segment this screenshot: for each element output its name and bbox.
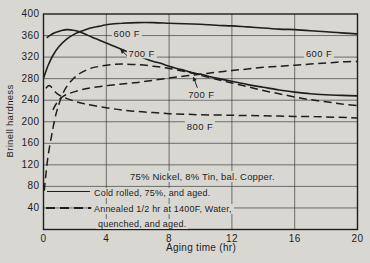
legend-label-annealed-line2: quenched, and aged. [96,219,188,229]
y-tick-label-320: 320 [0,51,40,62]
x-tick-label-4: 4 [94,233,118,244]
legend-label-cold-rolled: Cold rolled, 75%, and aged. [92,188,212,198]
legend-dashed-line-sample [46,207,91,209]
figure: Brinell hardness Aging time (hr) 75% Nic… [0,0,370,263]
curve-label-600f-2: 600 F [304,48,334,59]
x-axis-title: Aging time (hr) [166,242,236,253]
y-tick-label-400: 400 [0,8,40,19]
alloy-annotation: 75% Nickel, 8% Tin, bal. Copper. [128,171,277,182]
x-tick-label-12: 12 [220,233,244,244]
x-tick-label-16: 16 [283,233,307,244]
curve-label-700f-3: 700 F [186,89,216,100]
curve-label-600f-0: 600 F [112,27,142,38]
y-tick-label-240: 240 [0,94,40,105]
y-tick-label-120: 120 [0,159,40,170]
x-tick-label-0: 0 [32,233,56,244]
y-tick-label-40: 40 [0,202,40,213]
curve-600-f-annealed [53,61,358,110]
legend-label-annealed-line1: Annealed 1/2 hr at 1400F, Water, [92,204,234,214]
curve-label-700f-1: 700 F [126,47,156,58]
y-tick-label-280: 280 [0,73,40,84]
curve-700-f-cold-rolled [47,30,358,96]
y-tick-label-360: 360 [0,30,40,41]
y-tick-label-80: 80 [0,180,40,191]
y-tick-label-200: 200 [0,116,40,127]
x-tick-label-20: 20 [346,233,370,244]
x-tick-label-8: 8 [157,233,181,244]
legend-solid-line-sample [47,191,90,192]
y-tick-label-160: 160 [0,137,40,148]
curve-label-800f-4: 800 F [185,121,215,132]
